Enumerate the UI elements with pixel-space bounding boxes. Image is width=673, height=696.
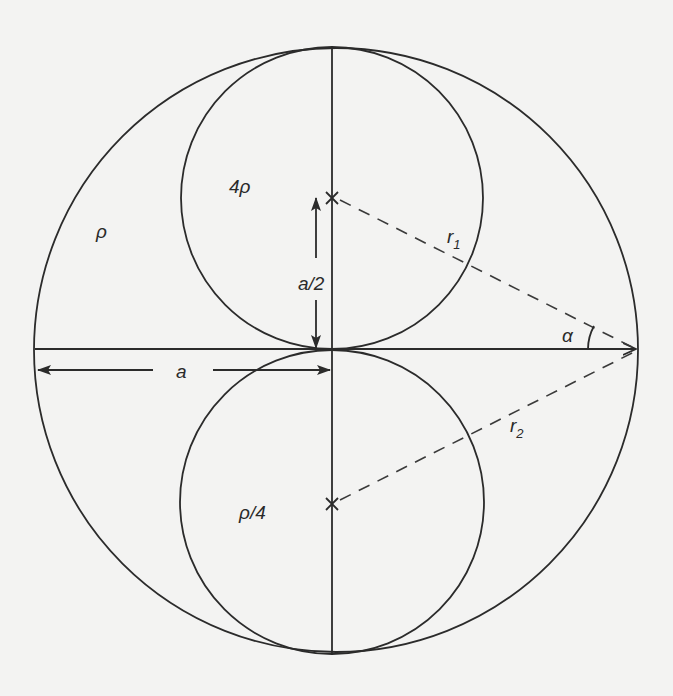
- r1-label: r1: [447, 226, 461, 252]
- lower-density-label: ρ/4: [238, 502, 266, 523]
- upper-density-label: 4ρ: [229, 176, 251, 197]
- alpha-label: α: [562, 325, 574, 346]
- r1-dashed-line: [340, 200, 636, 349]
- gravity-circles-diagram: ρ 4ρ ρ/4 a/2 a r1 r2 α: [0, 0, 673, 696]
- r2-dashed-line: [340, 351, 636, 500]
- r2-label: r2: [510, 415, 524, 441]
- radius-label: a: [176, 361, 187, 382]
- alpha-angle-arc: [588, 326, 594, 349]
- outer-density-label: ρ: [95, 221, 107, 242]
- half-spacing-label: a/2: [298, 273, 325, 294]
